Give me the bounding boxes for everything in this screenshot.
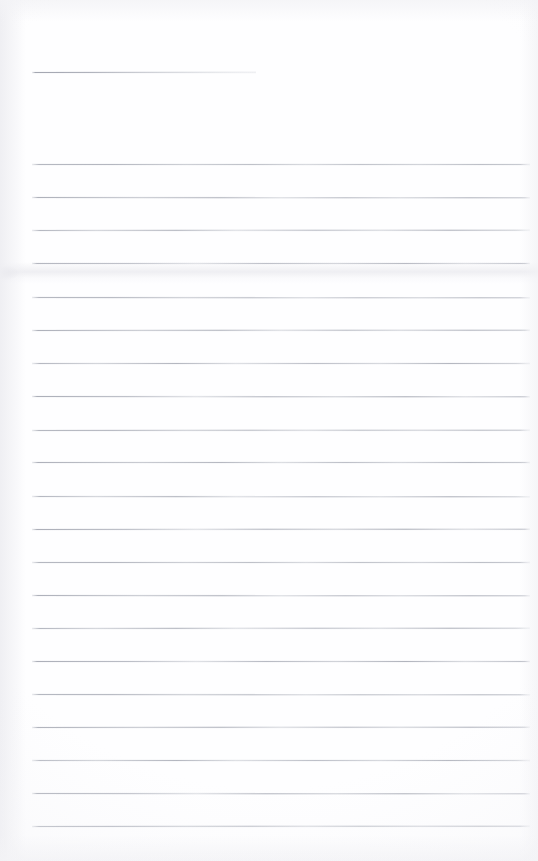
paper-background xyxy=(0,0,538,861)
scanned-page xyxy=(0,0,538,861)
